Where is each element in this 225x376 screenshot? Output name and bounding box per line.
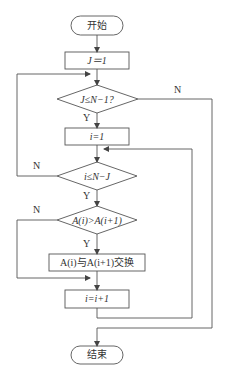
- inner-no-label: N: [33, 161, 40, 171]
- init-i-label: i=1: [90, 132, 105, 142]
- inc-i-label: i=i+1: [85, 294, 109, 304]
- swap-label: A(i)与A(i+1)交换: [60, 258, 134, 268]
- flowchart-lines: [0, 0, 225, 376]
- start-label: 开始: [87, 21, 107, 31]
- inner-condition-label: i≤N−J: [84, 172, 110, 182]
- inner-yes-label: Y: [83, 191, 90, 201]
- outer-condition-label: J≤N−1?: [80, 95, 113, 105]
- init-j-label: J＝1: [87, 56, 106, 66]
- flowchart-canvas: 开始 J＝1 J≤N−1? i=1 i≤N−J A(i)>A(i+1) A(i)…: [0, 0, 225, 376]
- outer-yes-label: Y: [83, 113, 90, 123]
- compare-no-label: N: [33, 205, 40, 215]
- compare-yes-label: Y: [83, 239, 90, 249]
- end-label: 结束: [87, 350, 107, 360]
- compare-condition-label: A(i)>A(i+1): [72, 216, 122, 226]
- outer-no-label: N: [174, 85, 181, 95]
